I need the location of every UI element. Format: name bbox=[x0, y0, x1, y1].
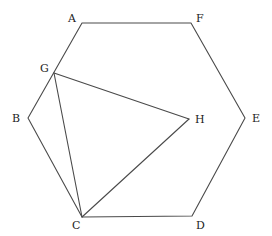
segment-HC bbox=[82, 119, 189, 217]
geometry-diagram: AFEDCBGH bbox=[0, 0, 272, 236]
point-label-e: E bbox=[252, 112, 260, 125]
point-label-d: D bbox=[196, 219, 205, 232]
hexagon-ABCDEF bbox=[28, 23, 245, 217]
diagram-shapes bbox=[28, 23, 245, 217]
point-label-a: A bbox=[67, 12, 77, 25]
point-label-g: G bbox=[40, 62, 49, 75]
segment-GH bbox=[54, 73, 189, 119]
diagram-labels: AFEDCBGH bbox=[12, 12, 260, 232]
point-label-b: B bbox=[12, 112, 20, 125]
point-label-h: H bbox=[195, 113, 205, 126]
segment-GC bbox=[54, 73, 82, 217]
point-label-f: F bbox=[196, 12, 204, 25]
point-label-c: C bbox=[72, 219, 80, 232]
